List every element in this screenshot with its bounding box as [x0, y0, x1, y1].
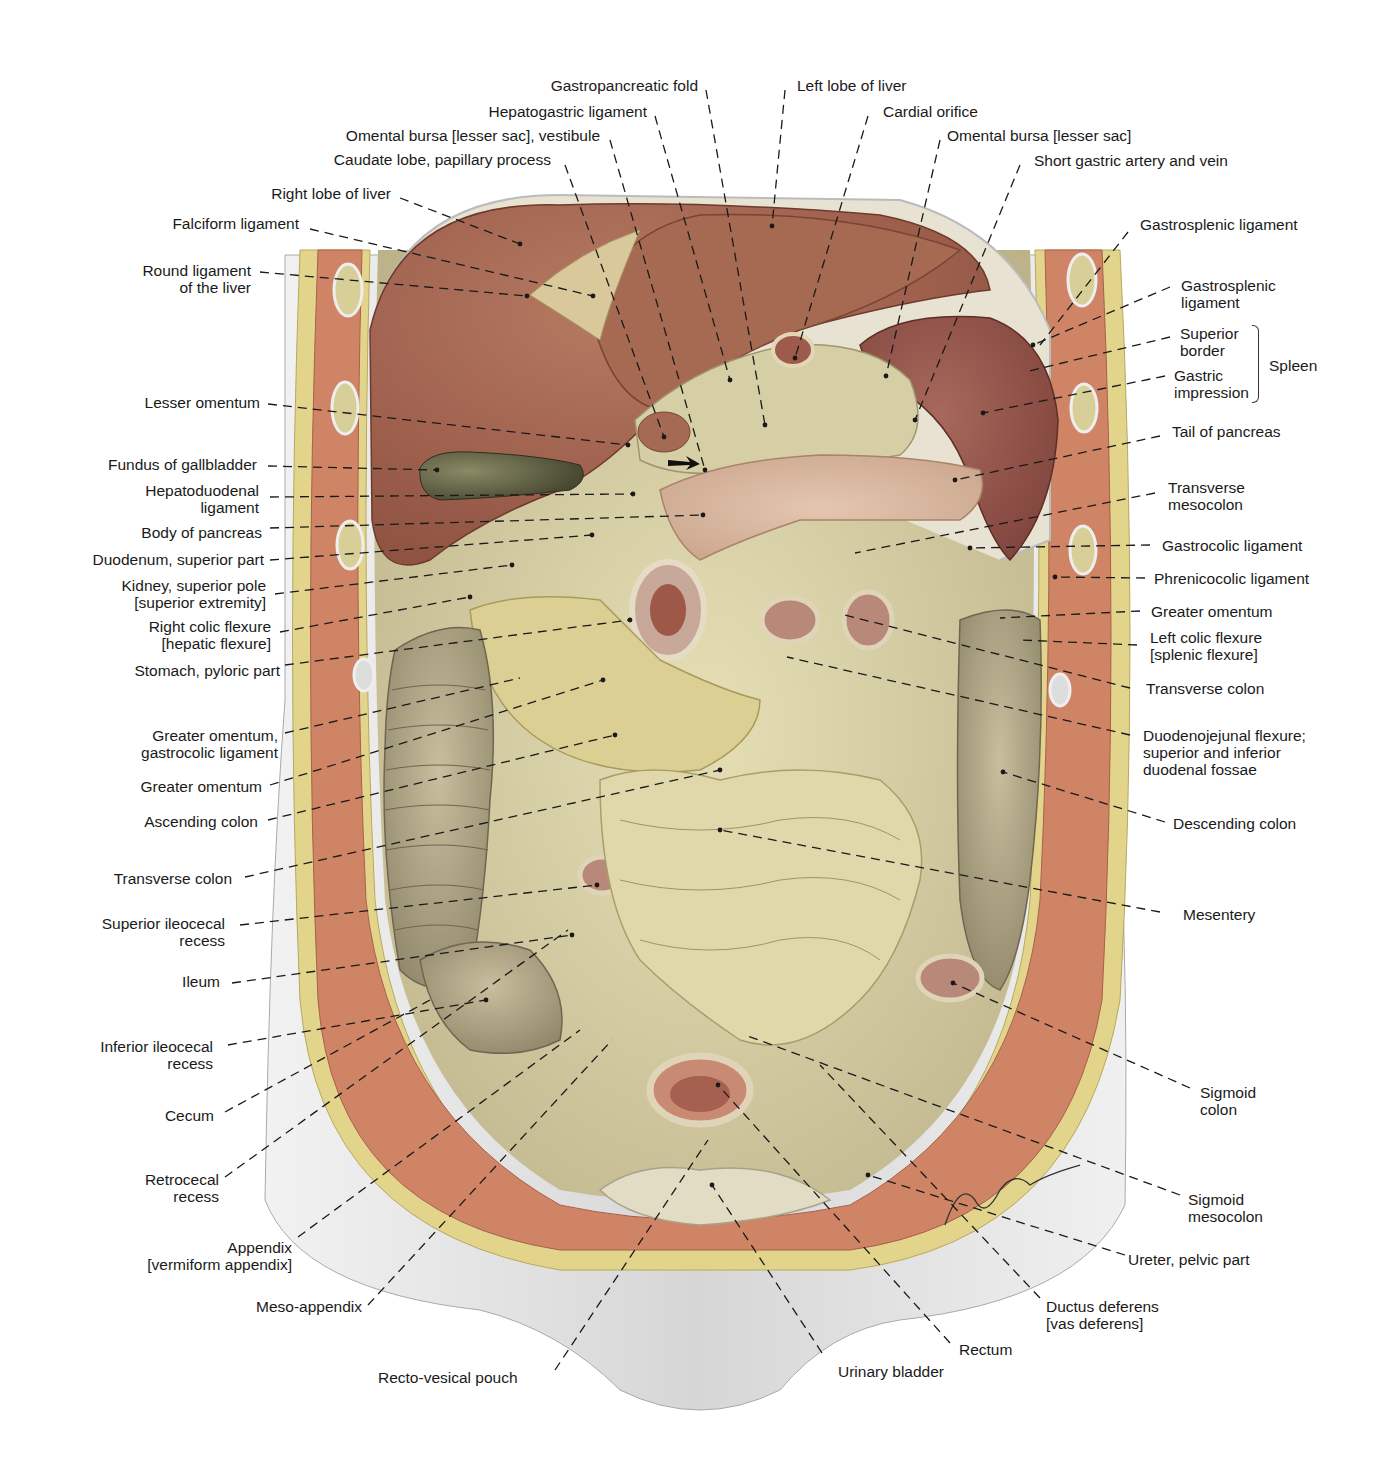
spleen-bracket	[1252, 325, 1259, 403]
label-meso-appendix: Meso-appendix	[60, 1298, 362, 1315]
label-transverse-colon-right: Transverse colon	[1146, 680, 1264, 697]
label-gastrosplenic-1: Gastrosplenic ligament	[1140, 216, 1298, 233]
label-recto-vesical-pouch: Recto-vesical pouch	[378, 1369, 518, 1386]
label-appendix: Appendix[vermiform appendix]	[60, 1239, 292, 1273]
colon-cut-left	[762, 598, 818, 642]
label-inferior-ileocecal: Inferior ileocecalrecess	[60, 1038, 213, 1072]
label-hepatogastric-ligament: Hepatogastric ligament	[420, 103, 647, 120]
label-duodenojejunal: Duodenojejunal flexure;superior and infe…	[1143, 727, 1306, 778]
label-transverse-mesocolon: Transversemesocolon	[1168, 479, 1245, 513]
rib-section	[354, 659, 374, 691]
label-sigmoid-colon: Sigmoidcolon	[1200, 1084, 1256, 1118]
sigmoid-cut	[918, 956, 982, 1000]
label-cardial-orifice: Cardial orifice	[883, 103, 978, 120]
label-hepatoduodenal-ligament: Hepatoduodenalligament	[80, 482, 259, 516]
label-duodenum-superior: Duodenum, superior part	[60, 551, 264, 568]
label-right-lobe-liver: Right lobe of liver	[150, 185, 391, 202]
label-greater-omentum-right: Greater omentum	[1151, 603, 1272, 620]
label-retrocecal: Retrocecalrecess	[60, 1171, 219, 1205]
label-ductus-deferens: Ductus deferens[vas deferens]	[1046, 1298, 1159, 1332]
label-ureter-pelvic: Ureter, pelvic part	[1128, 1251, 1249, 1268]
label-falciform-ligament: Falciform ligament	[100, 215, 299, 232]
label-gastropancreatic-fold: Gastropancreatic fold	[484, 77, 698, 94]
rib-section	[1050, 674, 1070, 706]
label-caudate-lobe: Caudate lobe, papillary process	[290, 151, 551, 168]
label-round-ligament: Round ligamentof the liver	[80, 262, 251, 296]
rib-section	[1070, 526, 1096, 574]
label-descending-colon: Descending colon	[1173, 815, 1296, 832]
label-gastric-impression: Gastricimpression	[1174, 367, 1249, 401]
caudate-lobe-shape	[638, 412, 690, 452]
colon-cut-right	[844, 592, 892, 648]
label-lesser-omentum: Lesser omentum	[80, 394, 260, 411]
label-gastrocolic-ligament: Gastrocolic ligament	[1162, 537, 1302, 554]
label-sigmoid-mesocolon: Sigmoidmesocolon	[1188, 1191, 1263, 1225]
label-greater-omentum-left: Greater omentum	[60, 778, 262, 795]
label-rectum: Rectum	[959, 1341, 1012, 1358]
label-urinary-bladder: Urinary bladder	[838, 1363, 944, 1380]
label-superior-border: Superiorborder	[1180, 325, 1239, 359]
label-cecum: Cecum	[60, 1107, 214, 1124]
rib-section	[334, 264, 362, 316]
label-mesentery: Mesentery	[1183, 906, 1255, 923]
label-gastrosplenic-2: Gastrosplenicligament	[1181, 277, 1276, 311]
label-left-colic-flexure: Left colic flexure[splenic flexure]	[1150, 629, 1262, 663]
rib-section	[1071, 384, 1097, 432]
label-spleen: Spleen	[1269, 357, 1317, 374]
label-transverse-colon-left: Transverse colon	[60, 870, 232, 887]
label-phrenicocolic-ligament: Phrenicocolic ligament	[1154, 570, 1309, 587]
label-stomach-pyloric: Stomach, pyloric part	[60, 662, 280, 679]
label-short-gastric: Short gastric artery and vein	[1034, 152, 1228, 169]
label-superior-ileocecal: Superior ileocecalrecess	[60, 915, 225, 949]
label-fundus-gallbladder: Fundus of gallbladder	[60, 456, 257, 473]
label-right-colic-flexure: Right colic flexure[hepatic flexure]	[60, 618, 271, 652]
label-kidney-superior-pole: Kidney, superior pole[superior extremity…	[60, 577, 266, 611]
label-ascending-colon: Ascending colon	[60, 813, 258, 830]
rib-section	[332, 382, 358, 434]
label-left-lobe-liver: Left lobe of liver	[797, 77, 906, 94]
label-omental-bursa-vestibule: Omental bursa [lesser sac], vestibule	[300, 127, 600, 144]
label-greater-omentum-gastrocolic: Greater omentum,gastrocolic ligament	[60, 727, 278, 761]
cardial-orifice-shape	[773, 334, 813, 366]
rib-section	[337, 521, 363, 569]
label-omental-bursa: Omental bursa [lesser sac]	[947, 127, 1131, 144]
rib-section	[1068, 254, 1096, 306]
label-body-pancreas: Body of pancreas	[80, 524, 262, 541]
label-tail-pancreas: Tail of pancreas	[1172, 423, 1281, 440]
label-ileum: Ileum	[60, 973, 220, 990]
